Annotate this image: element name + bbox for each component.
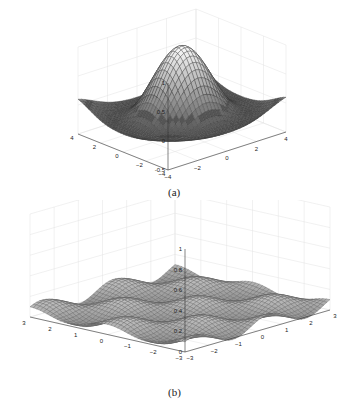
x-tick-label: 0 [225,155,229,161]
x-tick-label: 0 [261,334,265,340]
y-tick-label: 1 [74,332,78,338]
y-tick-label: 2 [48,326,52,332]
x-tick-label: −2 [194,165,202,171]
z-tick-label: 0.4 [174,308,183,314]
y-tick-label: −4 [159,171,167,177]
y-tick-label: −3 [176,355,184,361]
y-tick-label: 0 [100,338,104,344]
x-tick-label: 4 [284,136,288,142]
z-tick-label: 1 [179,246,183,252]
subplot-b: 00.20.40.60.81−3−2−10123−3−2−10123 (b) [0,200,352,404]
x-tick-label: 2 [309,320,313,326]
y-tick-label: 4 [70,135,74,141]
y-tick-label: 0 [115,153,119,159]
z-tick-label: 0.6 [174,287,183,293]
y-tick-label: 2 [93,144,97,150]
x-tick-label: −2 [211,348,219,354]
y-tick-label: −1 [124,343,132,349]
x-tick-label: −4 [165,174,173,180]
surface-plot-b: 00.20.40.60.81−3−2−10123−3−2−10123 [0,200,352,404]
x-tick-label: −1 [235,341,243,347]
surface-mesh [78,45,286,141]
caption-b: (b) [168,386,181,398]
x-tick-label: −3 [187,355,195,361]
surface-plot-a: -0.500.51−4−2024−4−2024 [0,0,352,200]
z-tick-label: 0.8 [174,267,183,273]
z-tick-label: 0.2 [174,328,183,334]
y-tick-label: −2 [150,349,158,355]
x-tick-label: 2 [255,146,259,152]
z-tick-label: 0.5 [157,109,166,115]
x-tick-label: 1 [285,327,289,333]
x-tick-label: 3 [333,313,337,319]
y-tick-label: 3 [22,320,26,326]
y-tick-label: −2 [136,162,144,168]
subplot-a: -0.500.51−4−2024−4−2024 (a) [0,0,352,200]
caption-a: (a) [168,186,180,198]
